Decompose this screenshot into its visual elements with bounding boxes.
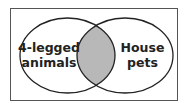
set-label-right-line1: House xyxy=(121,40,165,55)
set-label-left-line1: 4-legged xyxy=(18,40,80,55)
set-label-right-line2: pets xyxy=(127,55,158,70)
set-label-left-line2: animals xyxy=(22,55,77,70)
venn-diagram: 4-legged animals House pets xyxy=(0,0,186,103)
